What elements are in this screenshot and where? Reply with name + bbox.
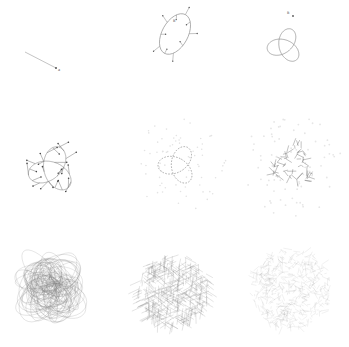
halo-dot [290,151,292,153]
halo-dot [297,124,299,126]
fuzz-stroke [279,282,285,284]
halo-dot [273,179,275,181]
halo-dot [185,186,187,188]
halo-dot [148,130,150,132]
fuzz-stroke [281,324,286,326]
spoke-end [176,19,177,20]
halo-dot [260,178,262,180]
halo-dot [271,154,273,156]
halo-dot [329,186,331,188]
tangle-stroke [277,162,284,165]
halo-dot [273,121,275,123]
hair-stroke [166,255,178,259]
fuzz-stroke [318,272,321,273]
hair-stroke [206,274,213,278]
halo-dot [161,138,163,140]
halo-dot [185,195,187,197]
hair-stroke [189,291,190,297]
halo-dot [167,151,169,153]
halo-dot [157,141,159,143]
fuzz-stroke [293,281,296,285]
spoke [30,169,37,172]
halo-dot [284,188,286,190]
fuzz-stroke [293,314,296,321]
fuzz-stroke [298,268,299,273]
halo-dot [176,135,178,137]
halo-dot [165,187,167,189]
fuzz-stroke [273,318,276,319]
halo-dot [320,165,322,167]
hair-stroke [132,306,144,311]
tangle-stroke [287,175,291,183]
halo-dot [159,177,161,179]
hair-stroke [203,302,213,307]
fuzz-stroke [318,297,320,302]
fuzz-stroke [280,311,287,315]
halo-dot [266,184,268,186]
halo-dot [221,170,223,172]
halo-dot [188,156,190,158]
hair-stroke [174,305,180,310]
fuzz-stroke [308,290,314,294]
tangle-stroke [293,138,296,146]
hair-stroke [148,268,149,278]
halo-dot [162,151,164,153]
spoke-end [165,34,166,35]
spoke-end [68,141,70,143]
halo-dot [296,188,298,190]
trefoil-curve [28,147,71,190]
tangle-stroke [276,174,283,180]
fuzz-stroke [316,300,321,304]
spoke [163,16,167,23]
hair-stroke [168,310,179,314]
halo-dot [145,165,147,167]
hair-stroke [147,281,152,284]
halo-dot [202,191,204,193]
halo-dot [319,123,321,125]
halo-dot [298,183,300,185]
halo-dot [211,135,213,137]
tangle-stroke [292,169,293,174]
trefoil-curve [267,29,299,62]
hair-stroke [144,277,154,283]
tangle-stroke [269,167,275,173]
halo-dot [251,135,253,137]
halo-dot [285,204,287,206]
hair-stroke [134,297,141,300]
fuzz-stroke [289,320,297,323]
fuzz-stroke [301,297,307,300]
halo-dot [328,144,330,146]
fuzz-stroke [314,285,316,288]
halo-dot [332,154,334,156]
halo-dot [271,136,273,138]
tangle-stroke [306,166,307,176]
tangle-stroke [283,153,287,154]
fuzz-stroke [300,304,301,307]
fuzz-stroke [322,311,329,314]
fuzz-stroke [293,278,295,279]
fuzz-stroke [291,302,297,305]
halo-dot [224,162,226,164]
spoke-end [68,177,70,179]
fuzz-stroke [281,284,284,288]
fuzz-stroke [310,283,313,288]
halo-dot [278,126,280,128]
fuzz-stroke [250,293,253,296]
spoke-end [40,188,42,190]
spoke-end [32,185,34,187]
spoke-end [186,24,187,25]
halo-dot [328,153,330,155]
fuzz-stroke [256,292,259,299]
hair-stroke [186,294,197,299]
halo-dot [326,177,328,179]
fuzz-stroke [280,286,282,288]
halo-dot [302,173,304,175]
spoke-end [26,160,28,162]
spoke-end [67,164,69,166]
fuzz-stroke [318,279,320,280]
fuzz-stroke [307,292,309,297]
spoke [154,46,160,51]
spoke-end [52,187,54,189]
hair-stroke [188,277,189,282]
halo-dot [212,193,214,195]
